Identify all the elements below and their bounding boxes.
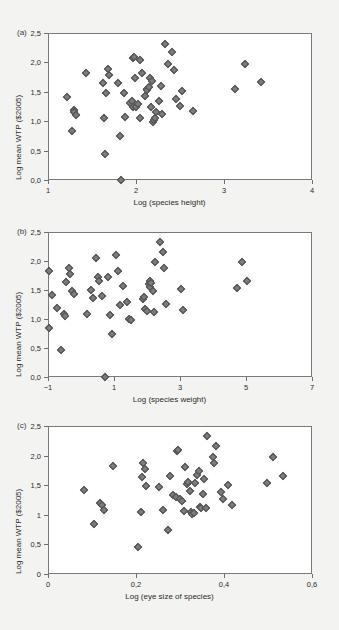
x-axis-tick [48,180,49,184]
scatter-panel-c: (c) 00,20,40,600,511,52,02,5Log (eye siz… [0,415,339,630]
y-axis-tick-label: 0,5 [31,540,41,549]
x-axis-tick [136,180,137,184]
x-axis-tick-label: 7 [310,383,314,392]
scatter-panel-b: (b) −113570,00,51,01,52,02,5Log (species… [0,205,339,417]
y-axis-tick [44,121,48,122]
y-axis-tick-label: 1,0 [31,117,41,126]
y-axis-tick-label: 2,0 [31,58,41,67]
y-axis-tick [44,515,48,516]
x-axis-tick [312,377,313,381]
scatter-panel-a: (a) 12340,00,51,01,52,02,5Log (species h… [0,0,339,210]
y-axis-tick [44,377,48,378]
x-axis-title: Log (eye size of species) [0,592,339,601]
x-axis-tick [312,180,313,184]
y-axis-tick [44,232,48,233]
x-axis-tick-label: 0 [46,580,50,589]
y-axis-tick [44,180,48,181]
y-axis-tick [44,33,48,34]
x-axis-tick [114,377,115,381]
panel-label-b: (b) [17,227,27,236]
y-axis-tick-label: 2,5 [31,422,41,431]
x-axis-tick [246,377,247,381]
y-axis-tick [44,62,48,63]
x-axis-tick [48,574,49,578]
x-axis-title: Log (species weight) [0,395,339,404]
y-axis-tick-label: 1,5 [31,88,41,97]
panel-label-c: (c) [17,421,26,430]
y-axis-tick-label: 1,0 [31,315,41,324]
y-axis-tick [44,456,48,457]
x-axis-tick-label: 1 [46,186,50,195]
x-axis-tick-label: −1 [44,383,53,392]
y-axis-title: Log mean WTP ($2005) [14,95,23,180]
y-axis-tick [44,426,48,427]
y-axis-tick [44,544,48,545]
x-axis-tick [48,377,49,381]
y-axis-tick-label: 1,5 [31,481,41,490]
x-axis-tick [224,180,225,184]
y-axis-tick-label: 0 [37,570,41,579]
x-axis-tick [224,574,225,578]
x-axis-tick-label: 3 [222,186,226,195]
y-axis-tick [44,92,48,93]
y-axis-tick-label: 2,5 [31,228,41,237]
y-axis-tick [44,348,48,349]
y-axis-title: Log mean WTP ($2005) [14,292,23,377]
x-axis-tick-label: 5 [244,383,248,392]
y-axis-tick-label: 2,0 [31,452,41,461]
figure-container: (a) 12340,00,51,01,52,02,5Log (species h… [0,0,339,630]
y-axis-tick-label: 1,5 [31,286,41,295]
y-axis-tick [44,151,48,152]
y-axis-title: Log mean WTP ($2005) [14,489,23,574]
y-axis-tick-label: 0,5 [31,147,41,156]
y-axis-tick-label: 0,0 [31,176,41,185]
y-axis-tick [44,485,48,486]
y-axis-tick [44,319,48,320]
x-axis-tick-label: 3 [178,383,182,392]
y-axis-tick-label: 1 [37,511,41,520]
y-axis-tick-label: 0,0 [31,373,41,382]
y-axis-tick-label: 2,0 [31,257,41,266]
y-axis-tick [44,574,48,575]
y-axis-tick-label: 0,5 [31,344,41,353]
x-axis-tick [312,574,313,578]
plot-frame [48,232,312,377]
y-axis-tick [44,261,48,262]
x-axis-tick-label: 0,4 [219,580,229,589]
x-axis-tick-label: 1 [112,383,116,392]
y-axis-tick-label: 2,5 [31,29,41,38]
x-axis-tick-label: 4 [310,186,314,195]
x-axis-tick [180,377,181,381]
x-axis-tick [136,574,137,578]
x-axis-tick-label: 0,2 [131,580,141,589]
y-axis-tick [44,290,48,291]
panel-label-a: (a) [17,28,27,37]
x-axis-tick-label: 2 [134,186,138,195]
x-axis-tick-label: 0,6 [307,580,317,589]
